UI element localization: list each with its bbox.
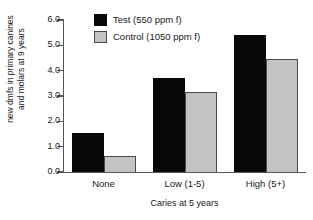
bar-control [104, 156, 136, 172]
x-axis-title: Caries at 5 years [63, 198, 306, 208]
black-square-icon [94, 14, 107, 26]
bar-test [72, 133, 104, 172]
bar-control [185, 92, 217, 172]
y-axis-tick-label: 2.0 [20, 116, 60, 125]
legend-item-control: Control (1050 ppm f) [94, 29, 200, 44]
y-axis-tick-label: 5.0 [20, 40, 60, 49]
bar-chart-figure: new dmfs in primary canines and molars a… [0, 0, 312, 220]
legend-item-test: Test (550 ppm f) [94, 12, 200, 27]
legend-label-test: Test (550 ppm f) [113, 14, 182, 25]
y-axis-tick-label: 0.0 [20, 167, 60, 176]
gray-square-icon [94, 31, 107, 43]
legend-label-control: Control (1050 ppm f) [113, 31, 200, 42]
y-axis-tick-label: 6.0 [20, 15, 60, 24]
chart-legend: Test (550 ppm f) Control (1050 ppm f) [94, 12, 200, 46]
y-axis-tick-label: 4.0 [20, 66, 60, 75]
y-axis-tick-label: 3.0 [20, 91, 60, 100]
x-axis-category-label: High (5+) [216, 178, 313, 189]
bar-control [266, 59, 298, 172]
y-axis-tick-label: 1.0 [20, 142, 60, 151]
bar-test [234, 35, 266, 172]
bar-test [153, 78, 185, 172]
y-axis-title-line-1: new dmfs in primary canines [5, 0, 16, 149]
